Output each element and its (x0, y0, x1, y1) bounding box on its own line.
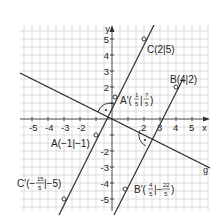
x-axis-label: x (202, 122, 207, 133)
svg-text:): ) (150, 95, 153, 106)
label-A: A(−1|−1) (51, 138, 90, 149)
coordinate-diagram: -5 -4 -3 -2 2 3 4 5 x 5 4 3 2 -2 -3 -4 -… (0, 0, 222, 222)
svg-text:|: | (140, 95, 143, 106)
point-C-prime (62, 197, 66, 201)
label-C-prime: C'(− 15 5 |−5) (17, 176, 61, 191)
x-tick-label: -3 (61, 122, 69, 133)
y-tick-label: 4 (104, 50, 109, 61)
y-tick-label: -3 (101, 162, 109, 173)
point-B (174, 85, 178, 89)
x-tick-label: 4 (173, 122, 178, 133)
svg-text:5: 5 (135, 101, 139, 107)
point-C (142, 37, 146, 41)
y-tick-label: 3 (104, 66, 109, 77)
label-B: B(4|2) (170, 74, 197, 85)
x-axis-arrow-icon (203, 117, 210, 122)
svg-text:A'(: A'( (120, 95, 133, 106)
x-tick-label: -4 (45, 122, 53, 133)
label-A-prime: A'( 1 5 | 7 5 ) (120, 92, 153, 107)
svg-text:5: 5 (145, 101, 149, 107)
y-tick-label: -5 (101, 194, 109, 205)
svg-text:22: 22 (163, 182, 170, 188)
y-tick-label: 5 (104, 34, 109, 45)
y-tick-label: -4 (101, 178, 109, 189)
right-angle-dot (105, 109, 107, 111)
y-tick-label: 2 (104, 82, 109, 93)
right-angle-dot (144, 139, 146, 141)
x-tick-label: 5 (189, 122, 194, 133)
svg-text:5: 5 (149, 191, 153, 197)
svg-text:5: 5 (38, 185, 42, 191)
x-tick-label: -2 (77, 122, 85, 133)
svg-text:B'(: B'( (134, 184, 147, 195)
y-tick-label: -2 (101, 146, 109, 157)
point-A (94, 133, 98, 137)
svg-text:C'(−: C'(− (17, 178, 35, 189)
label-C: C(2|5) (147, 44, 175, 55)
point-A-prime (113, 95, 117, 99)
x-tick-label: 2 (141, 122, 146, 133)
point-B-prime (123, 187, 127, 191)
svg-text:|−: |− (154, 184, 163, 195)
label-g: g (203, 165, 208, 175)
svg-text:|−5): |−5) (44, 178, 61, 189)
y-axis-label: y (105, 23, 110, 34)
x-tick-label: -5 (29, 122, 37, 133)
y-axis-arrow-icon (110, 25, 115, 32)
svg-text:): ) (171, 184, 174, 195)
svg-text:5: 5 (164, 191, 168, 197)
